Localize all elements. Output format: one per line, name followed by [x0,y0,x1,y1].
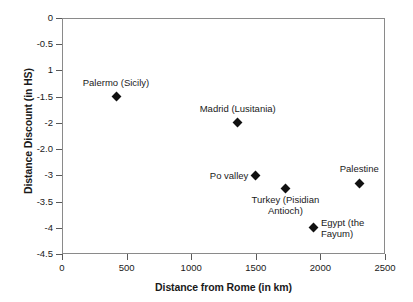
x-tick-mark [191,254,192,260]
x-tick-mark [62,254,63,260]
y-tick-label: -0.5 [7,39,53,49]
y-tick-mark [56,149,62,150]
x-tick-label: 2500 [355,263,413,273]
y-tick-mark [56,123,62,124]
y-tick-mark [56,97,62,98]
y-tick-mark [56,228,62,229]
x-tick-label: 0 [32,263,92,273]
y-tick-label: -4.5 [7,249,53,259]
data-point-label: Turkey (Pisidian Antioch) [252,194,320,216]
y-tick-label: 1 [7,65,53,75]
data-point-label: Madrid (Lusitania) [200,103,276,114]
y-tick-label: -3.5 [7,197,53,207]
x-tick-mark [385,254,386,260]
x-axis-title: Distance from Rome (in km) [62,281,385,293]
x-tick-mark [320,254,321,260]
y-tick-label: -3 [7,170,53,180]
y-tick-mark [56,70,62,71]
data-point-label: Po valley [210,170,249,181]
x-tick-label: 500 [97,263,157,273]
data-point-label: Egypt (the Fayum) [321,217,364,239]
y-tick-mark [56,202,62,203]
x-tick-label: 1000 [161,263,221,273]
data-point-label: Palestine [340,163,379,174]
y-tick-label: -4 [7,223,53,233]
y-tick-mark [56,18,62,19]
y-tick-mark [56,175,62,176]
x-tick-label: 1500 [226,263,286,273]
x-tick-label: 2000 [290,263,350,273]
x-tick-mark [127,254,128,260]
scatter-chart-figure: Distance Discount (in HS) 0-0.51-1.5-2-2… [0,0,413,302]
y-tick-mark [56,44,62,45]
y-tick-label: 0 [7,13,53,23]
y-tick-label: -1.5 [7,92,53,102]
data-point-label: Palermo (Sicily) [83,77,150,88]
y-tick-label: -2 [7,118,53,128]
x-tick-mark [256,254,257,260]
y-tick-label: -2.0 [7,144,53,154]
